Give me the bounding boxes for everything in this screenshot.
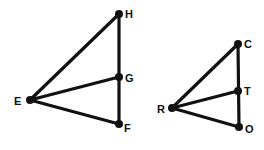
point-C: [234, 40, 242, 48]
label-G: G: [125, 72, 134, 84]
point-O: [235, 123, 243, 131]
point-T: [234, 87, 242, 95]
label-T: T: [244, 85, 251, 97]
segment-EF: [30, 100, 119, 124]
label-F: F: [124, 122, 131, 134]
label-O: O: [245, 123, 254, 135]
segment-CO: [238, 44, 239, 127]
point-H: [115, 10, 123, 18]
triangle-RCO: CTRO: [157, 38, 254, 135]
label-E: E: [14, 95, 21, 107]
segment-RO: [172, 108, 239, 127]
label-R: R: [157, 103, 165, 115]
geometry-diagram: HGEF CTRO: [0, 0, 264, 150]
point-G: [115, 73, 123, 81]
point-R: [168, 104, 176, 112]
label-C: C: [244, 38, 252, 50]
point-F: [115, 120, 123, 128]
label-H: H: [125, 8, 133, 20]
triangle-EHF: HGEF: [14, 8, 134, 134]
point-E: [26, 96, 34, 104]
